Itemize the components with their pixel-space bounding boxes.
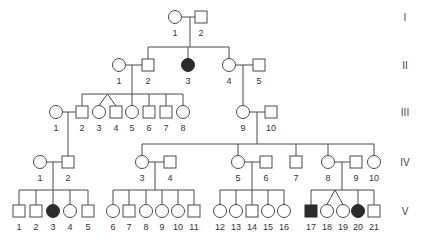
individual-iii-8: 8 [177, 106, 190, 134]
individual-v-14: 14 [246, 205, 258, 232]
individual-number: 5 [235, 173, 240, 183]
male-icon [30, 205, 42, 217]
individual-iv-3: 3 [136, 156, 149, 184]
male-icon [82, 205, 94, 217]
female-icon [34, 156, 47, 169]
female-icon [368, 156, 381, 169]
individual-number: 2 [79, 123, 84, 133]
individual-number: 1 [37, 173, 42, 183]
individual-v-21: 21 [368, 205, 380, 232]
female-icon [278, 205, 291, 218]
male-icon [253, 59, 265, 71]
male-icon [76, 106, 88, 118]
individual-iii-3: 3 [93, 106, 106, 134]
individual-v-3: 3 [47, 205, 60, 233]
male-icon [195, 11, 207, 23]
male-icon [246, 205, 258, 217]
individual-number: 13 [231, 222, 241, 232]
individual-number: 2 [198, 28, 203, 38]
male-icon [188, 205, 200, 217]
individual-number: 2 [33, 222, 38, 232]
male-icon [13, 205, 25, 217]
individual-v-9: 9 [156, 205, 169, 233]
affected-male-icon [305, 205, 317, 217]
individual-number: 10 [266, 123, 276, 133]
female-icon [169, 11, 182, 24]
individual-v-17: 17 [305, 205, 317, 232]
individual-iii-2: 2 [76, 106, 88, 133]
female-icon [107, 205, 120, 218]
individual-number: 3 [139, 173, 144, 183]
individual-number: 4 [113, 123, 118, 133]
female-icon [140, 205, 153, 218]
individual-ii-2: 2 [142, 59, 154, 86]
individual-number: 6 [110, 222, 115, 232]
individual-v-19: 19 [337, 205, 350, 233]
individual-iii-9: 9 [237, 106, 250, 134]
individual-number: 16 [279, 222, 289, 232]
male-icon [110, 106, 122, 118]
female-icon [214, 205, 227, 218]
individual-number: 12 [215, 222, 225, 232]
individual-v-15: 15 [262, 205, 275, 233]
male-icon [160, 106, 172, 118]
female-icon [136, 156, 149, 169]
male-icon [350, 156, 362, 168]
generation-label: II [402, 60, 408, 71]
individual-v-7: 7 [123, 205, 135, 232]
individual-number: 21 [369, 222, 379, 232]
individual-number: 20 [353, 222, 363, 232]
individual-number: 10 [369, 173, 379, 183]
generation-label: V [402, 206, 409, 217]
male-icon [290, 156, 302, 168]
individual-number: 5 [129, 123, 134, 133]
individual-ii-3: 3 [182, 59, 195, 87]
female-icon [126, 106, 139, 119]
individual-iv-4: 4 [164, 156, 176, 183]
individual-number: 2 [65, 173, 70, 183]
individual-number: 1 [16, 222, 21, 232]
individual-v-8: 8 [140, 205, 153, 233]
individual-number: 19 [338, 222, 348, 232]
individual-number: 9 [353, 173, 358, 183]
female-icon [322, 156, 335, 169]
individual-number: 10 [173, 222, 183, 232]
individual-number: 8 [325, 173, 330, 183]
affected-female-icon [352, 205, 365, 218]
twin-line [99, 94, 108, 106]
individual-i-1: 1 [169, 11, 182, 39]
individual-v-12: 12 [214, 205, 227, 233]
individual-iii-7: 7 [160, 106, 172, 133]
female-icon [64, 205, 77, 218]
affected-female-icon [47, 205, 60, 218]
individual-iii-4: 4 [110, 106, 122, 133]
individual-ii-4: 4 [223, 59, 236, 87]
individual-v-13: 13 [230, 205, 243, 233]
individual-number: 9 [159, 222, 164, 232]
individual-number: 5 [256, 76, 261, 86]
individual-v-1: 1 [13, 205, 25, 232]
individual-number: 18 [322, 222, 332, 232]
individual-iv-7: 7 [290, 156, 302, 183]
individual-number: 6 [146, 123, 151, 133]
individual-v-6: 6 [107, 205, 120, 233]
female-icon [223, 59, 236, 72]
individual-iii-10: 10 [265, 106, 277, 133]
male-icon [164, 156, 176, 168]
individual-iv-6: 6 [260, 156, 272, 183]
individual-ii-5: 5 [253, 59, 265, 86]
individual-number: 1 [172, 28, 177, 38]
male-icon [62, 156, 74, 168]
female-icon [262, 205, 275, 218]
twin-line [335, 190, 343, 205]
individual-iii-5: 5 [126, 106, 139, 134]
female-icon [230, 205, 243, 218]
individual-iv-9: 9 [350, 156, 362, 183]
twin-line [108, 94, 117, 106]
male-icon [260, 156, 272, 168]
twin-line [327, 190, 335, 205]
individual-v-11: 11 [188, 205, 200, 232]
individual-v-4: 4 [64, 205, 77, 233]
individual-v-20: 20 [352, 205, 365, 233]
individual-number: 8 [180, 123, 185, 133]
